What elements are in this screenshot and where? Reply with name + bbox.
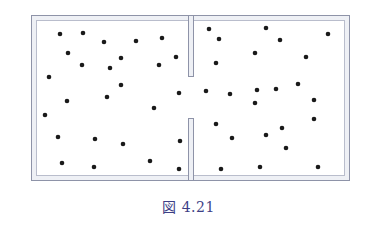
gas-particle (274, 87, 279, 92)
gas-particle (207, 27, 212, 32)
gas-particle (214, 61, 219, 66)
divider-lower (189, 119, 194, 181)
gas-particle (255, 88, 260, 93)
gas-particle (43, 113, 48, 118)
divider-joint-bottom (189, 175, 193, 180)
gas-particle (264, 26, 269, 31)
gas-particle (253, 51, 258, 56)
gas-particle (214, 122, 219, 127)
gas-particle (178, 139, 183, 144)
gas-particle (264, 133, 269, 138)
gas-particle (326, 32, 331, 37)
gas-particle (253, 101, 258, 106)
gas-particle (160, 36, 165, 41)
container-walls (32, 16, 350, 181)
gas-particle (119, 83, 124, 88)
gas-particle (105, 95, 110, 100)
gas-particle (177, 91, 182, 96)
gas-particle (65, 99, 70, 104)
gas-particle (228, 92, 233, 97)
gas-particle (177, 167, 182, 172)
gas-particle (102, 40, 107, 45)
gas-particle (296, 82, 301, 87)
gas-particle (204, 89, 209, 94)
gas-particle (219, 167, 224, 172)
gas-particle (47, 75, 52, 80)
gas-particle (121, 142, 126, 147)
gas-particle (174, 55, 179, 60)
gas-particle (312, 98, 317, 103)
figure-caption: 図 4.21 (0, 196, 377, 216)
gas-particle (92, 165, 97, 170)
gas-particle (278, 38, 283, 43)
gas-particle (148, 159, 153, 164)
gas-particle (60, 161, 65, 166)
divider-upper (189, 16, 194, 77)
gas-particle (316, 165, 321, 170)
gas-particle (56, 135, 61, 140)
gas-particle (81, 31, 86, 36)
gas-particle (93, 137, 98, 142)
gas-particle (157, 63, 162, 68)
gas-particle (108, 66, 113, 71)
gas-particle (284, 146, 289, 151)
gas-particle (58, 32, 63, 37)
divider-joint-top (189, 16, 193, 21)
gas-particle (230, 136, 235, 141)
gas-particle (152, 106, 157, 111)
gas-particle (217, 37, 222, 42)
gas-particle (80, 63, 85, 68)
gas-particle (304, 55, 309, 60)
gas-particle (119, 56, 124, 61)
gas-particle (280, 126, 285, 131)
gas-particle (66, 51, 71, 56)
two-chamber-gas-diagram (0, 0, 377, 228)
gas-particle (134, 39, 139, 44)
gas-particle (312, 117, 317, 122)
gas-particle (258, 165, 263, 170)
